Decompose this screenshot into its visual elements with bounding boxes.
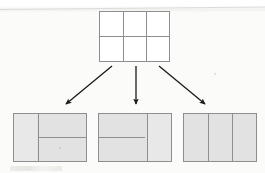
variant-1-speck — [59, 147, 61, 149]
diagram-canvas — [0, 0, 265, 173]
arrow-right — [159, 66, 205, 104]
variant-2-region-right — [148, 114, 171, 161]
variant-1-region-left — [14, 114, 37, 161]
source-grid-hline-1 — [100, 36, 169, 37]
variant-1-rectangle — [13, 113, 87, 162]
variant-1-hline-right — [38, 137, 86, 138]
variant-2-hline-left — [99, 137, 145, 138]
variant-2-vline-1 — [147, 114, 148, 161]
variant-3-vline-1 — [208, 114, 209, 161]
variant-2-rectangle — [98, 113, 172, 162]
variant-3-vline-2 — [232, 114, 233, 161]
variant-3-rectangle — [183, 113, 257, 162]
source-grid-rectangle — [99, 11, 170, 62]
scan-speck — [214, 73, 216, 75]
arrow-left — [66, 66, 112, 104]
scan-bottom-text-smudge — [10, 166, 62, 171]
